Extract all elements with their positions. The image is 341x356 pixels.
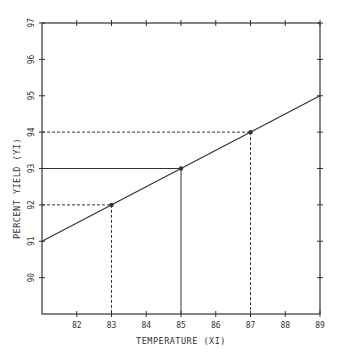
x-tick-label: 89 xyxy=(315,321,325,330)
y-tick-label: 92 xyxy=(27,200,36,210)
y-tick-label: 95 xyxy=(27,91,36,101)
y-tick-label: 96 xyxy=(27,54,36,64)
y-axis-title: PERCENT YIELD (YI) xyxy=(12,138,22,239)
y-tick-label: 93 xyxy=(27,164,36,174)
x-tick-label: 85 xyxy=(176,321,186,330)
x-axis-title: TEMPERATURE (XI) xyxy=(136,336,226,346)
y-tick-label: 90 xyxy=(27,273,36,283)
x-axis-ticks: 8283848586878889 xyxy=(72,20,325,330)
y-tick-label: 91 xyxy=(27,236,36,246)
x-tick-label: 88 xyxy=(280,321,290,330)
x-tick-label: 83 xyxy=(107,321,117,330)
chart: 8283848586878889 9091929394959697 TEMPER… xyxy=(0,0,341,356)
y-axis-ticks: 9091929394959697 xyxy=(27,18,323,282)
x-tick-label: 87 xyxy=(246,321,256,330)
x-tick-label: 86 xyxy=(211,321,221,330)
y-tick-label: 97 xyxy=(27,18,36,28)
x-tick-label: 84 xyxy=(141,321,151,330)
y-tick-label: 94 xyxy=(27,127,36,137)
data-point xyxy=(179,166,183,170)
x-tick-label: 82 xyxy=(72,321,82,330)
data-point xyxy=(109,203,113,207)
guide-lines xyxy=(42,132,251,314)
data-point xyxy=(248,130,252,134)
